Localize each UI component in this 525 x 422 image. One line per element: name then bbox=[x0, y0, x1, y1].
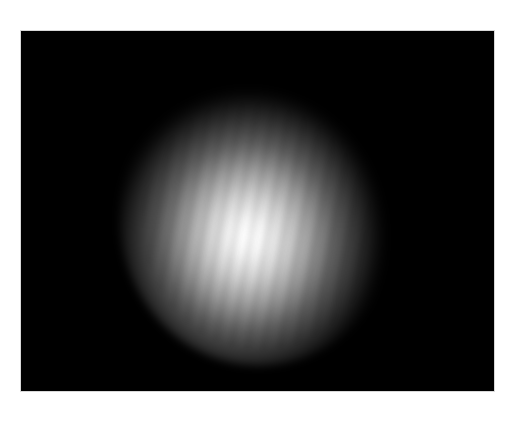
light-streaks bbox=[141, 91, 381, 351]
image-frame bbox=[21, 31, 494, 391]
